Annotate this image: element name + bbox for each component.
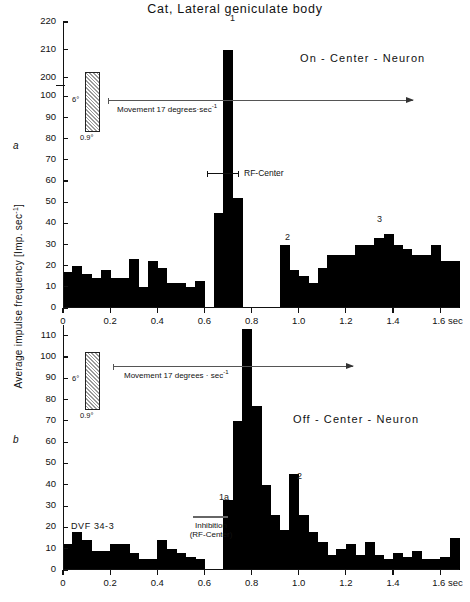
y-tick-mark [63, 202, 68, 203]
y-tick-mark [63, 463, 68, 464]
stimulus-bar-a [85, 72, 100, 132]
y-tick-mark [63, 442, 68, 443]
movement-label-a: Movement 17 degrees·sec-1 [117, 103, 217, 114]
y-tick-mark [63, 420, 68, 421]
movement-label-exponent-a: -1 [212, 103, 217, 109]
inhibition-label-line2: (RF-Center) [181, 530, 241, 539]
y-tick-mark [63, 138, 68, 139]
y-tick-label: 20 [45, 259, 56, 270]
rf-center-rule-a [207, 173, 239, 174]
x-tick-mark [440, 570, 441, 575]
histogram-bar [233, 198, 243, 308]
x-tick-mark [440, 308, 441, 313]
movement-arrow-a [108, 100, 413, 101]
x-tick-label: 1.6 sec [432, 577, 470, 588]
peak-label-a-1: 1 [230, 13, 235, 23]
y-tick-mark [63, 265, 68, 266]
y-tick-label: 100 [40, 89, 56, 100]
y-tick-label: 0 [51, 301, 56, 312]
x-tick-mark [251, 570, 252, 575]
plot-area-b [63, 325, 459, 570]
y-tick-label: 210 [40, 43, 56, 54]
peak-label-a-2: 2 [285, 232, 290, 242]
y-axis-label-bracket: ] [13, 204, 24, 207]
stimulus-bar-b [85, 352, 100, 410]
stimulus-width-label-b: 0.9° [80, 411, 93, 420]
y-tick-mark [63, 506, 68, 507]
neuron-type-label-a: On - Center - Neuron [300, 52, 425, 64]
chart-panel-b: 0102030405060708090100110 00.20.40.60.81… [63, 325, 459, 570]
y-tick-mark [63, 286, 68, 287]
y-tick-label: 30 [45, 499, 56, 510]
y-tick-label: 110 [41, 329, 56, 340]
y-tick-mark [63, 180, 68, 181]
x-tick-mark [204, 570, 205, 575]
x-tick-mark [392, 308, 393, 313]
y-tick-mark [63, 548, 68, 549]
y-tick-label: 220 [40, 15, 56, 26]
movement-label-b: Movement 17 degrees · sec-1 [124, 369, 229, 380]
y-tick-label: 70 [45, 153, 56, 164]
x-tick-label: 0.8 [238, 577, 266, 588]
y-tick-label: 30 [45, 238, 56, 249]
y-tick-mark [63, 378, 68, 379]
y-tick-label: 0 [51, 563, 56, 574]
x-tick-mark [62, 308, 63, 313]
chart-panel-a: 0102030405060708090100200210220 00.20.40… [63, 22, 459, 308]
x-tick-label: 0.4 [143, 577, 171, 588]
y-tick-mark [63, 244, 68, 245]
movement-label-text-a: Movement 17 degrees·sec [117, 105, 212, 114]
y-tick-label: 60 [45, 435, 56, 446]
x-tick-label: 0 [49, 577, 77, 588]
x-tick-mark [298, 308, 299, 313]
y-tick-mark [63, 307, 68, 308]
x-tick-mark [251, 308, 252, 313]
y-tick-label: 40 [45, 216, 56, 227]
x-tick-label: 1.0 [285, 577, 313, 588]
y-tick-mark [63, 223, 68, 224]
x-tick-mark [345, 308, 346, 313]
histogram-bar [450, 261, 460, 308]
y-tick-mark [63, 77, 68, 78]
x-tick-mark [345, 570, 346, 575]
x-tick-label: 0.6 [190, 577, 218, 588]
y-tick-label: 100 [40, 350, 56, 361]
y-tick-label: 60 [45, 174, 56, 185]
y-axis-break-a [56, 85, 65, 86]
x-tick-mark [62, 570, 63, 575]
movement-label-text-b: Movement 17 degrees · sec [124, 371, 223, 380]
x-tick-mark [392, 570, 393, 575]
panel-label-a: a [13, 140, 19, 151]
panel-label-b: b [13, 434, 19, 445]
y-tick-mark [63, 96, 68, 97]
stimulus-width-label-a: 0.9° [80, 133, 93, 142]
y-tick-label: 10 [45, 542, 56, 553]
x-axis-line-b [63, 569, 459, 570]
y-axis-line-b [63, 325, 64, 570]
x-tick-mark [204, 308, 205, 313]
x-tick-mark [157, 570, 158, 575]
x-tick-label: 0.2 [96, 577, 124, 588]
x-tick-label: 1.2 [332, 577, 360, 588]
rf-center-label-a: RF-Center [244, 168, 284, 178]
inhibition-bar [193, 516, 228, 518]
histogram-bar [195, 281, 205, 309]
y-tick-label: 90 [45, 371, 56, 382]
x-tick-mark [110, 308, 111, 313]
y-tick-mark [63, 21, 68, 22]
y-tick-label: 40 [45, 478, 56, 489]
inhibition-label: Inhibition (RF-Center) [181, 521, 241, 539]
y-tick-mark [63, 159, 68, 160]
y-tick-label: 70 [45, 414, 56, 425]
x-tick-mark [110, 570, 111, 575]
y-tick-mark [63, 569, 68, 570]
y-tick-label: 10 [45, 280, 56, 291]
plot-area-a [63, 22, 459, 308]
stimulus-height-label-a: 6° [72, 95, 79, 104]
inhibition-label-line1: Inhibition [181, 521, 241, 530]
y-tick-label: 50 [45, 195, 56, 206]
x-axis-line-a [63, 307, 459, 308]
x-tick-label: 1.4 [379, 577, 407, 588]
neuron-type-label-b: Off - Center - Neuron [293, 413, 419, 425]
peak-label-b-1a: 1a [219, 492, 229, 502]
